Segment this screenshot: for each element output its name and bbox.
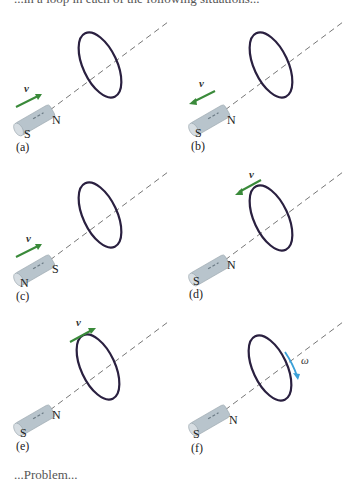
conducting-loop	[240, 329, 300, 407]
conducting-loop	[241, 26, 301, 104]
panel-e: v⃗ N S (e)	[0, 320, 175, 470]
arrowhead-icon	[235, 188, 243, 195]
panel-caption: (d)	[189, 287, 203, 302]
velocity-label: v⃗	[249, 168, 262, 180]
omega-label: ω	[301, 354, 309, 366]
panel-caption: (c)	[16, 289, 29, 304]
bar-magnet	[12, 254, 56, 288]
panel-b: v⃗ N S (b)	[175, 20, 350, 170]
panel-caption: (f)	[191, 441, 203, 456]
bar-magnet	[12, 104, 56, 138]
conducting-loop	[241, 179, 301, 257]
bar-magnet	[12, 404, 56, 438]
header-text-fragment: ...in a loop in each of the following si…	[14, 0, 260, 7]
panel-caption: (b)	[191, 139, 205, 154]
near-pole-label: N	[52, 408, 61, 423]
near-pole-label: N	[227, 113, 236, 128]
velocity-label: v⃗	[24, 82, 37, 94]
far-pole-label: S	[193, 427, 200, 442]
bar-magnet	[187, 104, 231, 138]
conducting-loop	[68, 328, 128, 406]
conducting-loop	[70, 176, 130, 254]
panel-d: v⃗ N S (d)	[175, 170, 350, 320]
velocity-arrow	[70, 330, 92, 342]
panel-f: ω N S (f)	[175, 320, 350, 470]
velocity-label: v⃗	[199, 77, 212, 89]
velocity-label: v⃗	[76, 316, 89, 328]
velocity-label: v⃗	[26, 232, 39, 244]
footer-text-fragment: ...Problem...	[14, 467, 78, 483]
conducting-loop	[70, 26, 130, 104]
panel-c: v⃗ S N (c)	[0, 170, 175, 320]
arrowhead-icon	[189, 98, 197, 105]
panel-a: v⃗ N S (a)	[0, 20, 175, 170]
near-pole-label: N	[52, 113, 61, 128]
arrowhead-icon	[293, 373, 300, 380]
near-pole-label: S	[52, 262, 59, 277]
panel-caption: (a)	[16, 140, 29, 155]
near-pole-label: N	[227, 258, 236, 273]
near-pole-label: N	[229, 413, 238, 428]
panel-caption: (e)	[16, 439, 29, 454]
